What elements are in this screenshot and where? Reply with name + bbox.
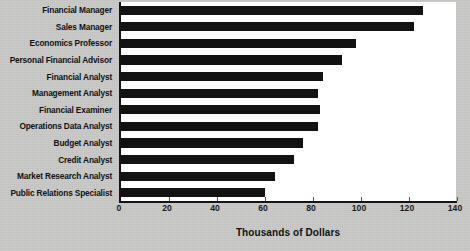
category-label: Operations Data Analyst: [0, 121, 112, 131]
x-axis-title: Thousands of Dollars: [119, 227, 457, 238]
bar: [121, 55, 342, 64]
bar: [121, 22, 414, 31]
x-axis-tick-label: 40: [210, 203, 220, 213]
category-label: Personal Financial Advisor: [0, 55, 112, 65]
bar: [121, 155, 294, 164]
bar: [121, 39, 356, 48]
category-label: Management Analyst: [0, 88, 112, 98]
plot-area: [119, 2, 456, 201]
x-axis-tick-label: 60: [258, 203, 268, 213]
x-axis-tick-labels: 020406080100120140: [0, 203, 470, 217]
bar: [121, 172, 275, 181]
category-label: Credit Analyst: [0, 155, 112, 165]
bar: [121, 188, 265, 197]
category-label: Financial Analyst: [0, 72, 112, 82]
category-label: Budget Analyst: [0, 138, 112, 148]
category-label: Financial Manager: [0, 5, 112, 15]
bar: [121, 89, 318, 98]
category-label: Sales Manager: [0, 22, 112, 32]
category-label: Public Relations Specialist: [0, 188, 112, 198]
bar-chart-figure: Financial ManagerSales ManagerEconomics …: [0, 0, 470, 251]
x-axis-tick-label: 140: [448, 203, 462, 213]
category-axis-labels: Financial ManagerSales ManagerEconomics …: [0, 2, 116, 201]
x-axis-tick: [457, 197, 458, 201]
x-axis-tick-label: 80: [306, 203, 316, 213]
bar: [121, 72, 323, 81]
category-label: Market Research Analyst: [0, 171, 112, 181]
x-axis-tick-label: 0: [117, 203, 122, 213]
bar: [121, 6, 423, 15]
x-axis-tick-label: 20: [162, 203, 172, 213]
bar: [121, 138, 303, 147]
bar: [121, 122, 318, 131]
bar: [121, 105, 320, 114]
category-label: Economics Professor: [0, 38, 112, 48]
x-axis-tick-label: 120: [400, 203, 414, 213]
category-label: Financial Examiner: [0, 105, 112, 115]
x-axis-tick-label: 100: [352, 203, 366, 213]
